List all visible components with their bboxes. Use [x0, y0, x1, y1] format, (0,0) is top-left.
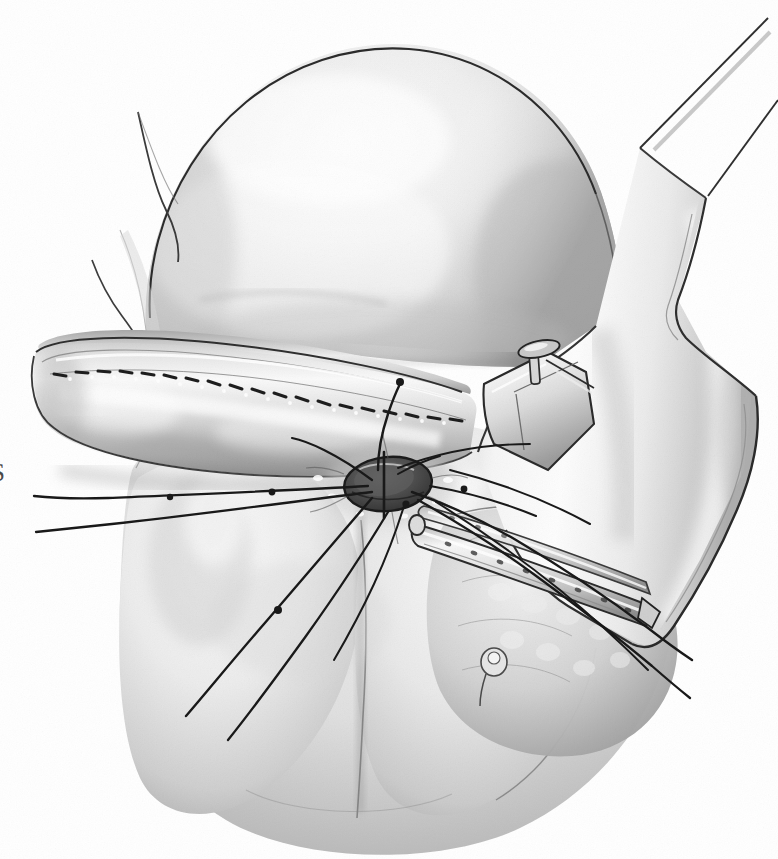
paper-grain [0, 0, 778, 859]
surgical-illustration [0, 0, 778, 859]
illustration-canvas: S [0, 0, 778, 859]
edge-figure-label: S [0, 458, 14, 488]
